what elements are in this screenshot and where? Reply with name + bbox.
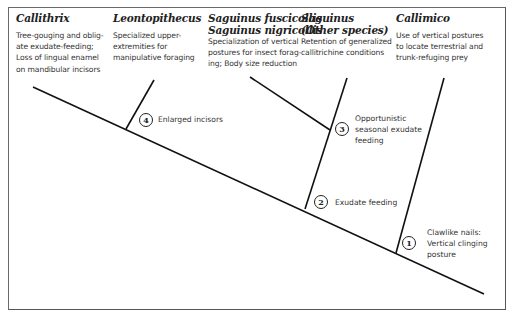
taxon-description: Tree-gouging and oblig- ate exudate-feed… bbox=[16, 30, 103, 75]
taxon-name: Leontopithecus bbox=[113, 12, 201, 24]
node-4-label: Enlarged incisors bbox=[158, 114, 223, 125]
taxon-callithrix: Callithrix Tree-gouging and oblig- ate e… bbox=[16, 12, 103, 75]
node-2-badge: 2 bbox=[314, 195, 328, 209]
taxon-leontopithecus: Leontopithecus Specialized upper- extrem… bbox=[113, 12, 201, 64]
taxon-name-secondary: (Other species) bbox=[301, 24, 392, 36]
node-2-label: Exudate feeding bbox=[335, 197, 397, 208]
node-3-label: Opportunistic seasonal exudate feeding bbox=[355, 113, 422, 146]
node-1-badge: 1 bbox=[402, 236, 416, 250]
taxon-saguinus-other: Saguinus (Other species) Retention of ge… bbox=[301, 12, 392, 58]
taxon-description: Specialized upper- extremities for manip… bbox=[113, 30, 201, 64]
node-4-badge: 4 bbox=[139, 113, 153, 127]
branch-saguinus-fuscicollis bbox=[250, 77, 330, 130]
taxon-callimico: Callimico Use of vertical postures to lo… bbox=[396, 12, 483, 64]
taxon-name: Callimico bbox=[396, 12, 483, 24]
taxon-description: Retention of generalized callitrichine c… bbox=[301, 36, 392, 58]
branch-saguinus-others bbox=[305, 78, 347, 209]
taxon-description: Use of vertical postures to locate terre… bbox=[396, 30, 483, 64]
taxon-name: Callithrix bbox=[16, 12, 103, 24]
node-1-label: Clawlike nails: Vertical clinging postur… bbox=[427, 227, 488, 260]
node-3-badge: 3 bbox=[335, 122, 349, 136]
taxon-name: Saguinus bbox=[301, 12, 392, 24]
